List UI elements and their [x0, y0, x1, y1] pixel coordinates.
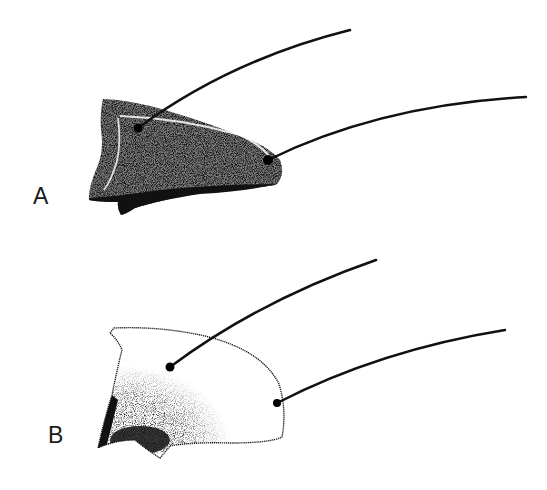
panel-a [89, 30, 526, 215]
panel-a-seta-2 [268, 97, 526, 160]
panel-b-seta-1-socket [166, 363, 175, 372]
panel-b [90, 260, 505, 460]
figure-illustration [0, 0, 547, 490]
panel-label-a: A [33, 185, 48, 208]
panel-label-b: B [48, 424, 63, 447]
panel-b-seta-2 [277, 330, 505, 403]
panel-a-seta-2-socket [263, 155, 273, 165]
panel-b-dark-base [110, 426, 170, 454]
panel-b-seta-2-socket [273, 399, 281, 407]
panel-a-seta-1-socket [134, 124, 143, 133]
